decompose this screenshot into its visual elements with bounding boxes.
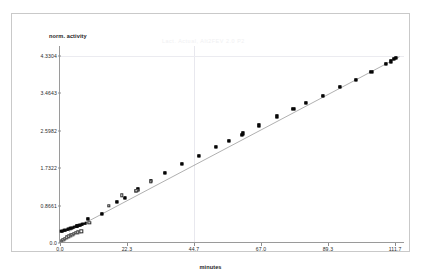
x-axis-tick-mark — [127, 243, 128, 246]
data-point — [395, 57, 398, 60]
gridline-horizontal — [60, 56, 404, 57]
x-axis-tick-label: 44.7 — [189, 246, 200, 252]
data-point — [107, 204, 110, 207]
x-axis-label: minutes — [12, 264, 409, 270]
x-axis-tick-label: 67.0 — [256, 246, 267, 252]
data-point — [84, 222, 87, 225]
data-point — [370, 70, 373, 73]
data-point — [88, 221, 91, 224]
data-point — [86, 217, 89, 220]
y-axis-tick-label: 2.5982 — [41, 128, 57, 134]
x-axis-tick-label: 89.3 — [323, 246, 334, 252]
data-point — [149, 180, 152, 183]
data-point — [304, 101, 307, 104]
y-axis-tick-label: 1.7322 — [41, 165, 57, 171]
data-point — [292, 107, 295, 110]
data-point — [197, 154, 200, 157]
figure-frame: Lact. Actual, Alt2FEV 2.0 P2 norm. activ… — [11, 13, 410, 252]
data-point — [321, 94, 324, 97]
chart-title: Lact. Actual, Alt2FEV 2.0 P2 — [162, 38, 245, 44]
data-point — [180, 162, 183, 165]
data-point — [120, 194, 123, 197]
data-point — [123, 196, 126, 199]
x-axis-tick-mark — [60, 243, 61, 246]
data-point — [80, 230, 83, 233]
y-axis-tick-label: 4.3304 — [41, 53, 57, 59]
data-point — [163, 171, 166, 174]
data-point — [276, 115, 279, 118]
y-axis-tick-mark — [58, 168, 61, 169]
chart-figure: Lact. Actual, Alt2FEV 2.0 P2 norm. activ… — [0, 0, 423, 270]
plot-inner: 0.00.86611.73222.59823.46434.33040.022.3… — [60, 46, 404, 242]
x-axis-tick-mark — [194, 243, 195, 246]
gridline-vertical — [194, 46, 195, 242]
x-axis-tick-label: 111.7 — [389, 246, 402, 252]
y-axis-tick-label: 3.4643 — [41, 90, 57, 96]
plot-area: 0.00.86611.73222.59823.46434.33040.022.3… — [59, 46, 404, 243]
data-point — [354, 78, 357, 81]
y-axis-label: norm. activity — [49, 33, 87, 39]
x-axis-tick-mark — [261, 243, 262, 246]
data-point — [115, 201, 118, 204]
y-axis-tick-mark — [58, 93, 61, 94]
data-point — [100, 212, 103, 215]
y-axis-tick-mark — [58, 130, 61, 131]
regression-line — [60, 46, 404, 242]
data-point — [338, 85, 341, 88]
y-axis-tick-mark — [58, 205, 61, 206]
data-point — [385, 63, 388, 66]
data-point — [241, 132, 244, 135]
x-axis-tick-mark — [395, 243, 396, 246]
y-axis-tick-mark — [58, 55, 61, 56]
data-point — [134, 189, 137, 192]
data-point — [258, 124, 261, 127]
data-point — [227, 139, 230, 142]
x-axis-tick-label: 0.0 — [56, 246, 64, 252]
x-axis-tick-label: 22.3 — [122, 246, 133, 252]
x-axis-tick-mark — [328, 243, 329, 246]
data-point — [215, 145, 218, 148]
y-axis-tick-label: 0.8661 — [41, 203, 57, 209]
